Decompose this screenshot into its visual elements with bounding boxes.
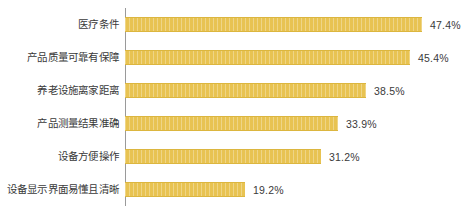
bar-segment[interactable] — [125, 50, 410, 65]
bar-segment[interactable] — [125, 116, 338, 131]
bar-value-label: 19.2% — [253, 184, 284, 196]
bar-track: 33.9% — [125, 107, 476, 140]
table-row: 设备方便操作 31.2% — [0, 140, 476, 173]
bar-track: 38.5% — [125, 74, 476, 107]
bar-track: 31.2% — [125, 140, 476, 173]
bar-rows-container: 医疗条件 47.4% 产品质量可靠有保障 45.4% 养老设施离家距离 38.5… — [0, 8, 476, 206]
bar-value-label: 47.4% — [430, 19, 461, 31]
table-row: 设备显示界面易懂且清晰 19.2% — [0, 173, 476, 206]
category-label: 设备方便操作 — [0, 151, 125, 163]
category-label: 设备显示界面易懂且清晰 — [0, 184, 125, 196]
horizontal-bar-chart: 医疗条件 47.4% 产品质量可靠有保障 45.4% 养老设施离家距离 38.5… — [0, 0, 476, 218]
bar-track: 47.4% — [125, 8, 476, 41]
table-row: 医疗条件 47.4% — [0, 8, 476, 41]
plot-area: 医疗条件 47.4% 产品质量可靠有保障 45.4% 养老设施离家距离 38.5… — [0, 0, 476, 218]
table-row: 养老设施离家距离 38.5% — [0, 74, 476, 107]
category-label: 养老设施离家距离 — [0, 85, 125, 97]
table-row: 产品测量结果准确 33.9% — [0, 107, 476, 140]
bar-segment[interactable] — [125, 149, 321, 164]
bar-value-label: 33.9% — [346, 118, 377, 130]
category-label: 产品质量可靠有保障 — [0, 52, 125, 64]
bar-segment[interactable] — [125, 17, 422, 32]
bar-track: 45.4% — [125, 41, 476, 74]
bar-segment[interactable] — [125, 83, 366, 98]
bar-value-label: 38.5% — [374, 85, 405, 97]
category-label: 医疗条件 — [0, 19, 125, 31]
bar-value-label: 45.4% — [418, 52, 449, 64]
category-label: 产品测量结果准确 — [0, 118, 125, 130]
table-row: 产品质量可靠有保障 45.4% — [0, 41, 476, 74]
bar-track: 19.2% — [125, 173, 476, 206]
bar-segment[interactable] — [125, 182, 245, 197]
bar-value-label: 31.2% — [329, 151, 360, 163]
